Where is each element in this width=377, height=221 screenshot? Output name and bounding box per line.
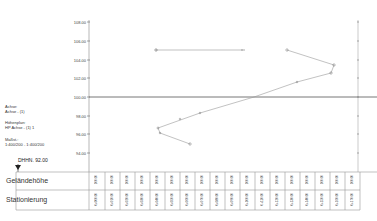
- ground-height-cell: 100.00: [351, 175, 354, 184]
- y-label-102: 102.00: [68, 76, 86, 81]
- station-cell: 0+140.00: [306, 193, 309, 206]
- station-cell: 0+010.00: [111, 193, 114, 206]
- legend-scale-value: 1:400/200 - 1:400/200: [5, 142, 44, 147]
- station-cell: 0+120.00: [276, 193, 279, 206]
- station-cell: 0+160.00: [336, 193, 339, 206]
- ground-height-cell: 100.00: [111, 175, 114, 184]
- y-label-100: 100.00: [68, 95, 86, 100]
- row-label-ground-height: Geländehöhe: [6, 177, 48, 184]
- y-label-104: 104.00: [68, 58, 86, 63]
- ground-height-cell: 100.00: [321, 175, 324, 184]
- station-cell: 0+090.00: [231, 193, 234, 206]
- station-cell: 0+100.00: [246, 193, 249, 206]
- ground-height-cell: 100.00: [156, 175, 159, 184]
- ground-height-cell: 100.00: [306, 175, 309, 184]
- ground-height-cell: 100.00: [141, 175, 144, 184]
- ground-height-cell: 100.00: [276, 175, 279, 184]
- left-ticks: [87, 22, 90, 153]
- station-cell: 0+070.00: [201, 193, 204, 206]
- ground-height-cell: 100.00: [95, 175, 98, 184]
- station-cell: 0+020.00: [126, 193, 129, 206]
- ground-height-cell: 100.00: [291, 175, 294, 184]
- profile-chart: [0, 0, 377, 221]
- row-label-station: Stationierung: [6, 196, 47, 203]
- ground-height-cell: 100.00: [126, 175, 129, 184]
- station-cell: 0+030.00: [141, 193, 144, 206]
- y-label-106: 106.00: [68, 39, 86, 44]
- y-label-108: 108.00: [68, 20, 86, 25]
- y-label-98: 98.00: [68, 114, 86, 119]
- legend-axis-value: Achse - (1): [5, 109, 25, 114]
- station-cell: 0+000.00: [95, 193, 98, 206]
- ground-height-cell: 100.00: [261, 175, 264, 184]
- station-cell: 0+110.00: [261, 193, 264, 205]
- ground-height-cell: 100.00: [171, 175, 174, 184]
- station-cell: 0+040.00: [156, 193, 159, 206]
- station-cell: 0+080.00: [216, 193, 219, 206]
- y-label-94: 94.00: [68, 151, 86, 156]
- ground-height-cell: 100.00: [231, 175, 234, 184]
- ground-height-cell: 100.00: [186, 175, 189, 184]
- station-cell: 0+130.00: [291, 193, 294, 206]
- ground-height-cell: 100.00: [201, 175, 204, 184]
- y-label-96: 96.00: [68, 132, 86, 137]
- station-cell: 0+150.00: [321, 193, 324, 206]
- station-cell: 0+170.00: [351, 193, 354, 206]
- datum-label: DHHN. 92.00: [18, 157, 48, 163]
- station-cell: 0+050.00: [171, 193, 174, 206]
- legend-plan-value: HP Achse - (1) 1: [5, 125, 34, 130]
- station-cell: 0+060.00: [186, 193, 189, 206]
- ground-height-cell: 100.00: [246, 175, 249, 184]
- ground-height-cell: 100.00: [216, 175, 219, 184]
- ground-height-cell: 100.00: [336, 175, 339, 184]
